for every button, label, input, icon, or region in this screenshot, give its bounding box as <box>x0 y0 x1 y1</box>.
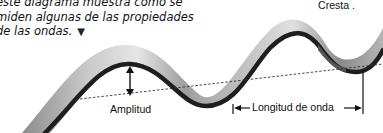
amplitude-label: Amplitud <box>110 103 151 115</box>
crest-label: Cresta . <box>318 0 355 11</box>
wave-ribbon-surface <box>22 20 383 133</box>
amplitude-arrow <box>126 66 134 96</box>
wave-diagram <box>0 0 383 133</box>
wavelength-label: Longitud de onda <box>252 101 334 113</box>
